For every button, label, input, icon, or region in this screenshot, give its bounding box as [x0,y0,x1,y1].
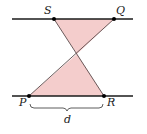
label-s: S [44,4,52,17]
label-p: P [18,96,27,109]
distance-brace [30,104,103,111]
hourglass-diagram: S Q P R d [0,0,147,134]
point-q [112,17,116,21]
label-q: Q [116,4,125,17]
point-s [52,17,56,21]
point-p [27,94,31,98]
label-r: R [106,96,115,109]
point-r [102,94,106,98]
upper-shaded-triangle [54,19,114,54]
lower-shaded-triangle [29,54,104,96]
distance-label: d [64,113,71,126]
